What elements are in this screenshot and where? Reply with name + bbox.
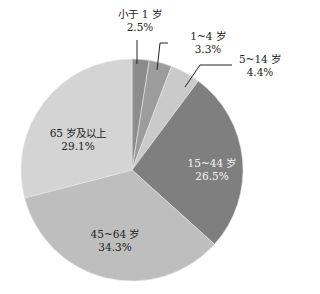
label-15-44-pct: 26.5% [182,170,242,183]
label-65-plus: 65 岁及以上 29.1% [40,127,116,153]
label-1-4: 1~4 岁 3.3% [185,30,231,56]
label-under-1: 小于 1 岁 2.5% [112,8,168,34]
label-5-14: 5~14 岁 4.4% [232,53,288,79]
label-65-plus-pct: 29.1% [40,140,116,153]
label-5-14-name: 5~14 岁 [232,53,288,66]
label-45-64-name: 45~64 岁 [85,228,145,241]
label-under-1-pct: 2.5% [112,21,168,34]
label-1-4-name: 1~4 岁 [185,30,231,43]
label-15-44: 15~44 岁 26.5% [182,157,242,183]
label-15-44-name: 15~44 岁 [182,157,242,170]
label-45-64-pct: 34.3% [85,241,145,254]
label-45-64: 45~64 岁 34.3% [85,228,145,254]
label-1-4-pct: 3.3% [185,43,231,56]
label-5-14-pct: 4.4% [232,66,288,79]
label-65-plus-name: 65 岁及以上 [40,127,116,140]
label-under-1-name: 小于 1 岁 [112,8,168,21]
